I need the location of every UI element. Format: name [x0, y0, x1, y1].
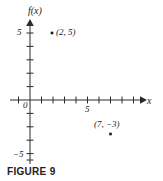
y-tick-label-5: 5 [17, 28, 22, 37]
x-axis-arrowhead [140, 96, 147, 104]
coordinate-plane-graphic [0, 0, 163, 181]
figure-container: f(x) x 5 −5 5 0 (2, 5) (7, −3) FIGURE 9 [0, 0, 163, 181]
data-point-a-label: (2, 5) [56, 28, 76, 37]
y-axis-label: f(x) [28, 6, 42, 16]
data-point-b-label: (7, −3) [94, 120, 120, 129]
x-axis-label: x [147, 96, 151, 106]
y-tick-label-negative-5: −5 [13, 150, 24, 159]
data-point-b [109, 133, 112, 136]
x-tick-label-5: 5 [85, 105, 90, 114]
figure-caption: FIGURE 9 [7, 166, 56, 177]
origin-label: 0 [23, 101, 28, 110]
y-axis-arrowhead [26, 19, 34, 26]
data-point-a [51, 32, 54, 35]
